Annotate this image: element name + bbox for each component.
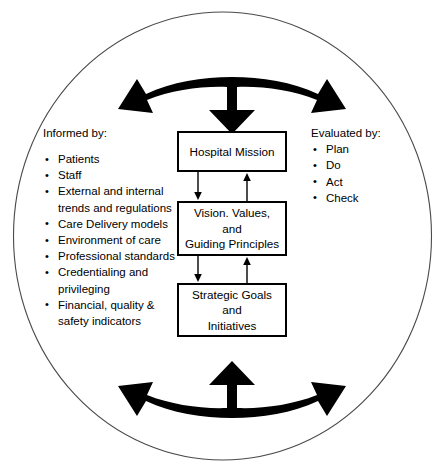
informed-by-item-financial: Financial, quality & safety indicators [43, 297, 188, 329]
box-hospital-mission: Hospital Mission [177, 131, 287, 172]
informed-by-item-credentialing: Credentialing and privileging [43, 264, 188, 296]
connector-mission-to-vision [194, 172, 202, 200]
informed-by-item-trends: External and internal trends and regulat… [43, 183, 188, 215]
evaluated-by-item-check: Check [311, 190, 426, 206]
informed-by-panel: Informed by: Patients Staff External and… [43, 126, 188, 329]
box-strategic-goals-label: Strategic GoalsandInitiatives [188, 287, 276, 333]
informed-by-item-staff: Staff [43, 167, 188, 183]
informed-by-heading: Informed by: [43, 126, 188, 140]
connector-vision-to-goals [194, 256, 202, 282]
box-hospital-mission-label: Hospital Mission [185, 144, 278, 159]
evaluated-by-item-plan: Plan [311, 141, 426, 157]
evaluated-by-heading: Evaluated by: [311, 126, 426, 140]
box-vision-values: Vision. Values,andGuiding Principles [177, 201, 287, 256]
evaluated-by-list: Plan Do Act Check [311, 141, 426, 206]
informed-by-item-patients: Patients [43, 151, 188, 167]
informed-by-item-environment: Environment of care [43, 232, 188, 248]
connector-goals-to-vision [243, 257, 251, 283]
informed-by-item-professional: Professional standards [43, 248, 188, 264]
connector-vision-to-mission [243, 173, 251, 201]
informed-by-list: Patients Staff External and internal tre… [43, 151, 188, 329]
informed-by-item-care-delivery: Care Delivery models [43, 216, 188, 232]
evaluated-by-panel: Evaluated by: Plan Do Act Check [311, 126, 426, 206]
evaluated-by-item-do: Do [311, 157, 426, 173]
bottom-split-arrow [118, 361, 346, 418]
diagram-canvas: Informed by: Patients Staff External and… [0, 0, 445, 473]
evaluated-by-item-act: Act [311, 174, 426, 190]
box-vision-values-label: Vision. Values,andGuiding Principles [181, 205, 283, 251]
box-strategic-goals: Strategic GoalsandInitiatives [177, 283, 287, 337]
